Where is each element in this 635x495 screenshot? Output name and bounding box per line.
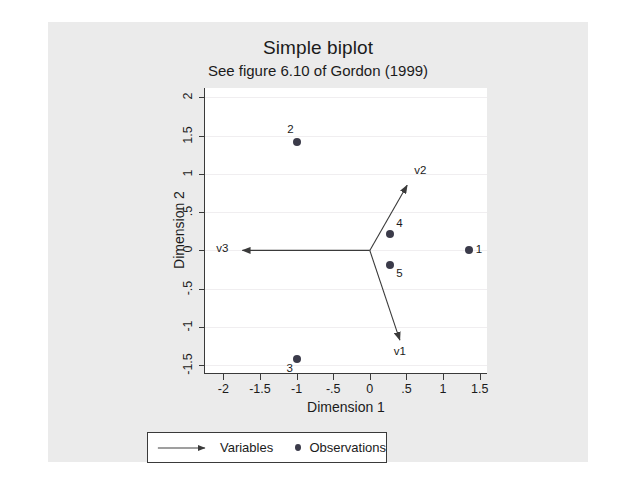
legend-arrow-icon: [157, 443, 212, 453]
x-tick: [223, 374, 224, 380]
screenshot-root: Simple biplot See figure 6.10 of Gordon …: [0, 0, 635, 495]
chart-subtitle: See figure 6.10 of Gordon (1999): [48, 61, 588, 81]
legend-observations-label: Observations: [309, 440, 386, 455]
x-tick: [406, 374, 407, 380]
x-axis-line: [204, 373, 487, 374]
x-tick: [260, 374, 261, 380]
x-tick: [370, 374, 371, 380]
chart-title: Simple biplot: [48, 36, 588, 60]
x-tick: [297, 374, 298, 380]
observation-point: [293, 355, 301, 363]
y-tick-label: -1: [181, 313, 195, 339]
y-tick-label: 1.5: [181, 122, 195, 148]
x-tick: [443, 374, 444, 380]
x-tick-label: -.5: [313, 382, 353, 396]
observation-label: 1: [476, 243, 482, 255]
x-tick-label: 1: [423, 382, 463, 396]
x-tick: [333, 374, 334, 380]
x-tick-label: -2: [203, 382, 243, 396]
plot-region: 21.51.50-.5-1-1.5 -2-1.5-1-.50.511.5 123…: [205, 88, 487, 373]
chart-titles: Simple biplot See figure 6.10 of Gordon …: [48, 36, 588, 81]
observation-label: 4: [396, 217, 402, 229]
variable-label: v2: [414, 164, 426, 176]
y-tick-label: -1.5: [181, 351, 195, 377]
x-tick-label: 1.5: [460, 382, 500, 396]
variable-vectors: [205, 88, 487, 373]
variable-vector: [370, 250, 400, 340]
legend-observation-dot: [295, 444, 301, 451]
y-axis-title: Dimension 2: [171, 170, 187, 290]
variable-label: v3: [216, 242, 228, 254]
x-tick-label: .5: [386, 382, 426, 396]
observation-label: 3: [287, 362, 293, 374]
x-tick: [480, 374, 481, 380]
legend-variables-label: Variables: [220, 440, 273, 455]
variable-label: v1: [394, 345, 406, 357]
y-tick-label: 2: [181, 83, 195, 109]
chart-legend: Variables Observations: [147, 432, 387, 463]
observation-label: 5: [396, 267, 402, 279]
x-tick-label: 0: [350, 382, 390, 396]
x-tick-label: -1.5: [240, 382, 280, 396]
x-axis-title: Dimension 1: [205, 399, 487, 415]
observation-label: 2: [287, 123, 293, 135]
x-tick-label: -1: [277, 382, 317, 396]
